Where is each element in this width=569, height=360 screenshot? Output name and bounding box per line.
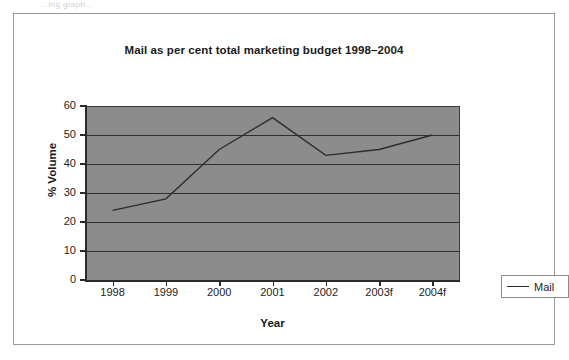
ytick-mark-20 — [80, 221, 85, 223]
ytick-label-10: 10 — [36, 245, 76, 255]
legend-item-mail[interactable]: Mail — [502, 276, 568, 297]
xtick-label-1999: 1999 — [139, 286, 193, 298]
xtick-label-2000: 2000 — [192, 286, 246, 298]
chart-figure-frame: Mail as per cent total marketing budget … — [13, 13, 555, 345]
ytick-mark-50 — [80, 134, 85, 136]
xtick-label-2001: 2001 — [246, 286, 300, 298]
xtick-label-1998: 1998 — [86, 286, 140, 298]
xtick-label-2004f: 2004f — [405, 286, 459, 298]
ytick-mark-0 — [80, 279, 85, 281]
legend[interactable]: Mail — [501, 275, 569, 298]
ytick-label-0: 0 — [36, 274, 76, 284]
ytick-mark-40 — [80, 163, 85, 165]
ytick-mark-60 — [80, 105, 85, 107]
xtick-label-2002: 2002 — [299, 286, 353, 298]
series-line-mail — [113, 118, 433, 211]
line-swatch-icon — [507, 286, 529, 287]
legend-item-label: Mail — [534, 281, 554, 293]
x-axis-title: Year — [86, 317, 459, 329]
y-axis-title: % Volume — [46, 110, 58, 230]
xtick-label-2003f: 2003f — [352, 286, 406, 298]
ytick-label-60: 60 — [36, 100, 76, 110]
ytick-mark-10 — [80, 250, 85, 252]
scan-artifact-text: …ing graph… — [40, 0, 240, 10]
series-plot — [86, 106, 459, 280]
chart-title: Mail as per cent total marketing budget … — [64, 44, 464, 56]
ytick-mark-30 — [80, 192, 85, 194]
